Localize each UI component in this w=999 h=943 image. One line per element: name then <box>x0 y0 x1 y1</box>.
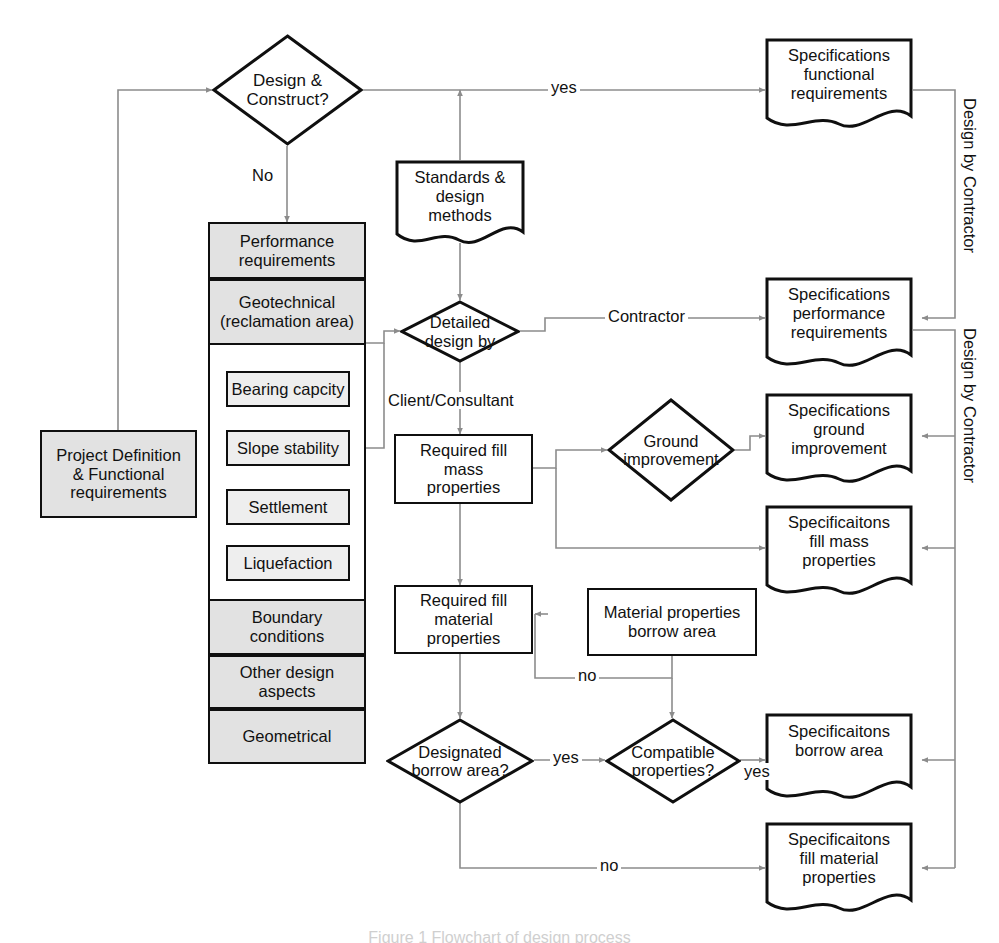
node-compatible-properties[interactable]: Compatible properties? <box>605 718 741 804</box>
stack-cell-geometrical[interactable]: Geometrical <box>210 709 364 762</box>
stack-item-liquefaction[interactable]: Liquefaction <box>226 545 350 581</box>
edge-label-yes-compatible: yes <box>741 763 773 780</box>
edge-label-client-consultant: Client/Consultant <box>385 392 517 409</box>
edge-label-yes-design-construct: yes <box>548 79 580 96</box>
figure-caption: Figure 1 Flowchart of design process <box>0 930 999 943</box>
node-spec-fill-material-properties[interactable]: Specificaitons fill material properties <box>765 822 913 916</box>
stack-cell-boundary-conditions[interactable]: Boundary conditions <box>210 599 364 655</box>
node-spec-functional-requirements[interactable]: Specifications functional requirements <box>765 38 913 132</box>
node-spec-performance-requirements[interactable]: Specifications performance requirements <box>765 277 913 371</box>
node-spec-ground-improvement[interactable]: Specifications ground improvement <box>765 393 913 487</box>
stack-cell-performance-requirements[interactable]: Performance requirements <box>210 224 364 279</box>
stack-item-settlement[interactable]: Settlement <box>226 489 350 525</box>
edge-label-no-designated-borrow: no <box>597 857 621 874</box>
flowchart-canvas: Project Definition & Functional requirem… <box>0 0 999 943</box>
stack-item-bearing-capacity[interactable]: Bearing capcity <box>226 371 350 407</box>
node-designated-borrow-area[interactable]: Designated borrow area? <box>386 718 534 804</box>
node-project-definition[interactable]: Project Definition & Functional requirem… <box>40 430 197 518</box>
edge-label-no-design-construct: No <box>249 167 276 184</box>
node-spec-borrow-area[interactable]: Specificaitons borrow area <box>765 713 913 803</box>
node-required-fill-material-properties[interactable]: Required fill material properties <box>394 585 533 654</box>
node-ground-improvement[interactable]: Ground improvement <box>607 398 735 502</box>
edge-label-no-material-properties: no <box>575 667 599 684</box>
stack-cell-other-design-aspects[interactable]: Other design aspects <box>210 655 364 709</box>
stack-item-slope-stability[interactable]: Slope stability <box>226 430 350 466</box>
node-spec-fill-mass-properties[interactable]: Specificaitons fill mass properties <box>765 505 913 599</box>
node-standards-design-methods[interactable]: Standards & design methods <box>395 160 525 248</box>
edge-label-yes-designated-borrow: yes <box>550 749 582 766</box>
node-design-construct[interactable]: Design & Construct? <box>212 34 363 146</box>
node-required-fill-mass-properties[interactable]: Required fill mass properties <box>394 434 533 504</box>
stack-cell-geotechnical[interactable]: Geotechnical (reclamation area) <box>210 279 364 345</box>
side-label-design-by-contractor-2: Design by Contractor <box>962 328 979 483</box>
node-detailed-design-by[interactable]: Detailed design by <box>400 300 520 363</box>
side-label-design-by-contractor-1: Design by Contractor <box>962 98 979 253</box>
node-material-properties-borrow-area[interactable]: Material properties borrow area <box>587 588 757 656</box>
edge-label-contractor: Contractor <box>605 308 688 325</box>
